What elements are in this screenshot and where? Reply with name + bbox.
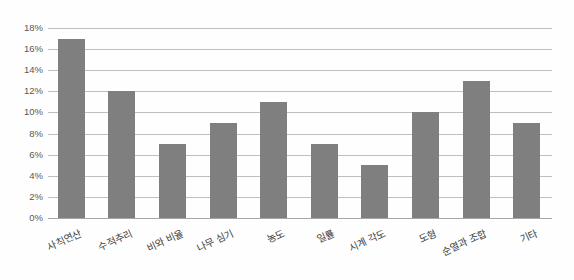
x-tick-label-4: 나무 심기	[194, 225, 235, 255]
bar-4	[210, 123, 237, 218]
bar-7	[361, 165, 388, 218]
bar-9	[463, 81, 490, 218]
x-tick-label-2: 수적추리	[95, 225, 134, 254]
bar-1	[58, 39, 85, 218]
x-tick-label-9: 순열과 조합	[439, 225, 489, 259]
gridline-18	[48, 28, 552, 29]
y-tick-label-0: 0%	[0, 212, 43, 224]
x-tick-label-6: 일률	[314, 225, 337, 246]
y-tick-label-12: 12%	[0, 85, 43, 97]
bar-10	[513, 123, 540, 218]
y-tick-label-6: 6%	[0, 149, 43, 161]
bar-5	[260, 102, 287, 218]
gridline-16	[48, 49, 552, 50]
bar-8	[412, 112, 439, 218]
y-tick-label-4: 4%	[0, 170, 43, 182]
bar-6	[311, 144, 338, 218]
y-tick-label-8: 8%	[0, 128, 43, 140]
x-tick-label-5: 농도	[263, 225, 286, 246]
x-tick-label-10: 기타	[516, 225, 539, 246]
y-tick-label-2: 2%	[0, 191, 43, 203]
y-tick-label-14: 14%	[0, 64, 43, 76]
x-tick-label-1: 사칙연산	[45, 225, 84, 254]
bar-3	[159, 144, 186, 218]
gridline-0	[48, 218, 552, 219]
bar-chart: 0%2%4%6%8%10%12%14%16%18%사칙연산수적추리비와 비율나무…	[0, 0, 574, 280]
bar-2	[108, 91, 135, 218]
y-tick-label-18: 18%	[0, 22, 43, 34]
y-tick-label-16: 16%	[0, 43, 43, 55]
gridline-14	[48, 70, 552, 71]
x-tick-label-3: 비와 비율	[143, 225, 184, 255]
x-tick-label-8: 도형	[415, 225, 438, 246]
y-tick-label-10: 10%	[0, 106, 43, 118]
x-tick-label-7: 시계 각도	[346, 225, 387, 255]
plot-area	[46, 28, 552, 218]
